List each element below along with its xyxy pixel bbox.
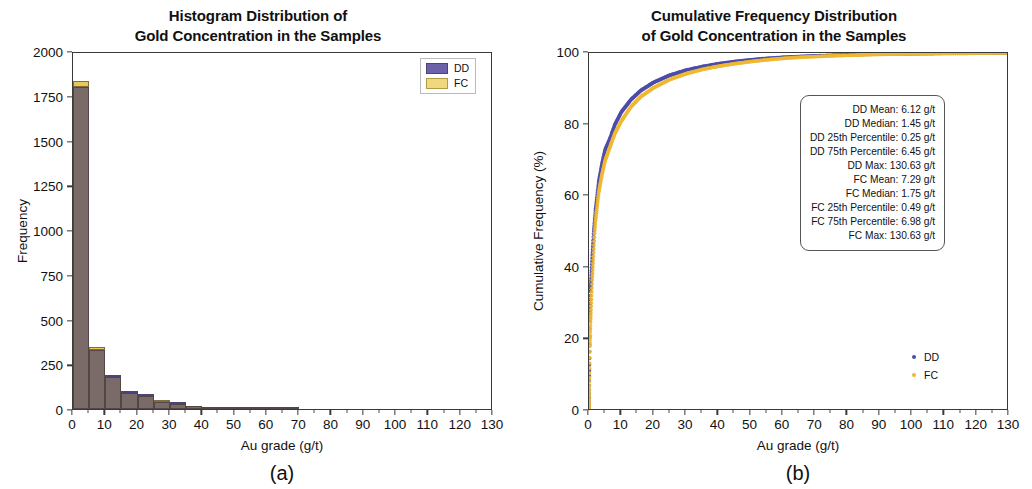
x-tick-mark bbox=[1007, 410, 1008, 415]
y-tick-mark bbox=[67, 275, 72, 276]
y-tick-label: 60 bbox=[564, 188, 579, 203]
y-tick-mark bbox=[67, 96, 72, 97]
histogram-bar-overlay bbox=[154, 400, 170, 402]
chart-title-b: Cumulative Frequency Distribution of Gol… bbox=[516, 6, 1032, 46]
x-tick-minor-mark bbox=[378, 410, 379, 413]
y-tick-label: 2000 bbox=[33, 45, 63, 60]
y-tick-mark bbox=[583, 338, 588, 339]
chart-title-a: Histogram Distribution of Gold Concentra… bbox=[0, 6, 516, 46]
statistics-line: DD Mean: 6.12 g/t bbox=[810, 103, 935, 117]
x-tick-mark bbox=[846, 410, 847, 415]
x-tick-mark bbox=[233, 410, 234, 415]
legend-item-dd-b: DD bbox=[912, 352, 939, 363]
y-tick-label: 100 bbox=[556, 45, 579, 60]
x-tick-mark bbox=[943, 410, 944, 415]
legend-dot-fc-icon bbox=[912, 373, 916, 377]
x-tick-mark bbox=[459, 410, 460, 415]
figure-gold-concentration-distributions: Histogram Distribution of Gold Concentra… bbox=[0, 0, 1032, 489]
x-tick-minor-mark bbox=[636, 410, 637, 413]
panel-b-cumulative: Cumulative Frequency Distribution of Gol… bbox=[516, 0, 1032, 489]
histogram-bar bbox=[170, 404, 186, 409]
x-tick-mark bbox=[652, 410, 653, 415]
chart-title-a-line2: Gold Concentration in the Samples bbox=[0, 26, 516, 46]
x-tick-label: 130 bbox=[481, 417, 504, 432]
histogram-bar-overlay bbox=[73, 81, 89, 87]
statistics-line: FC 25th Percentile: 0.49 g/t bbox=[810, 201, 935, 215]
legend-swatch-dd-icon bbox=[426, 63, 448, 74]
legend-label-dd-a: DD bbox=[454, 63, 469, 74]
statistics-line: DD 25th Percentile: 0.25 g/t bbox=[810, 131, 935, 145]
legend-label-fc-b: FC bbox=[924, 370, 938, 381]
legend-swatch-fc-icon bbox=[426, 78, 448, 89]
x-tick-label: 10 bbox=[613, 417, 628, 432]
x-tick-mark bbox=[587, 410, 588, 415]
plot-area-a bbox=[72, 52, 492, 410]
chart-title-a-line1: Histogram Distribution of bbox=[0, 6, 516, 26]
x-tick-minor-mark bbox=[862, 410, 863, 413]
x-tick-minor-mark bbox=[604, 410, 605, 413]
statistics-line: FC Max: 130.63 g/t bbox=[810, 229, 935, 243]
statistics-line: DD Median: 1.45 g/t bbox=[810, 117, 935, 131]
legend-dot-dd-icon bbox=[912, 355, 916, 359]
y-tick-mark bbox=[67, 320, 72, 321]
x-tick-mark bbox=[330, 410, 331, 415]
y-tick-mark bbox=[583, 195, 588, 196]
legend-label-fc-a: FC bbox=[454, 78, 468, 89]
y-tick-label: 80 bbox=[564, 116, 579, 131]
x-axis-label-b: Au grade (g/t) bbox=[588, 438, 1008, 453]
caption-a: (a) bbox=[232, 462, 332, 485]
y-tick-label: 40 bbox=[564, 259, 579, 274]
x-tick-minor-mark bbox=[346, 410, 347, 413]
statistics-line: FC Mean: 7.29 g/t bbox=[810, 173, 935, 187]
y-tick-mark bbox=[67, 51, 72, 52]
x-tick-label: 40 bbox=[194, 417, 209, 432]
histogram-bar-overlay bbox=[138, 394, 154, 396]
y-tick-label: 1500 bbox=[33, 134, 63, 149]
panel-a-histogram: Histogram Distribution of Gold Concentra… bbox=[0, 0, 516, 489]
x-tick-label: 90 bbox=[355, 417, 370, 432]
histogram-bar bbox=[73, 87, 89, 409]
histogram-bar bbox=[138, 396, 154, 409]
chart-title-b-line1: Cumulative Frequency Distribution bbox=[516, 6, 1032, 26]
histogram-bar-overlay bbox=[105, 375, 121, 377]
x-tick-mark bbox=[297, 410, 298, 415]
x-tick-mark bbox=[813, 410, 814, 415]
x-tick-label: 40 bbox=[710, 417, 725, 432]
y-tick-label: 1750 bbox=[33, 89, 63, 104]
x-tick-label: 0 bbox=[68, 417, 76, 432]
x-tick-label: 120 bbox=[964, 417, 987, 432]
x-tick-mark bbox=[136, 410, 137, 415]
histogram-bar bbox=[218, 407, 234, 409]
x-tick-mark bbox=[684, 410, 685, 415]
histogram-bar bbox=[154, 402, 170, 409]
x-tick-label: 30 bbox=[161, 417, 176, 432]
x-tick-minor-mark bbox=[152, 410, 153, 413]
histogram-bar bbox=[121, 393, 137, 409]
y-tick-label: 0 bbox=[55, 403, 63, 418]
histogram-bar bbox=[235, 407, 251, 409]
x-tick-minor-mark bbox=[701, 410, 702, 413]
y-tick-mark bbox=[67, 230, 72, 231]
legend-label-dd-b: DD bbox=[924, 352, 939, 363]
x-tick-mark bbox=[201, 410, 202, 415]
x-tick-minor-mark bbox=[668, 410, 669, 413]
x-tick-minor-mark bbox=[830, 410, 831, 413]
histogram-bar-overlay bbox=[170, 402, 186, 404]
x-tick-minor-mark bbox=[185, 410, 186, 413]
x-tick-mark bbox=[491, 410, 492, 415]
legend-item-fc-a: FC bbox=[426, 78, 469, 89]
histogram-bar bbox=[267, 407, 283, 409]
statistics-line: FC Median: 1.75 g/t bbox=[810, 187, 935, 201]
x-tick-label: 20 bbox=[129, 417, 144, 432]
x-tick-minor-mark bbox=[959, 410, 960, 413]
y-tick-label: 20 bbox=[564, 331, 579, 346]
x-tick-label: 20 bbox=[645, 417, 660, 432]
x-tick-mark bbox=[781, 410, 782, 415]
x-tick-mark bbox=[71, 410, 72, 415]
x-tick-minor-mark bbox=[411, 410, 412, 413]
y-tick-label: 1000 bbox=[33, 224, 63, 239]
histogram-bar bbox=[283, 407, 299, 409]
x-axis-label-a: Au grade (g/t) bbox=[72, 438, 492, 453]
statistics-line: DD 75th Percentile: 6.45 g/t bbox=[810, 145, 935, 159]
y-tick-label: 500 bbox=[40, 313, 63, 328]
